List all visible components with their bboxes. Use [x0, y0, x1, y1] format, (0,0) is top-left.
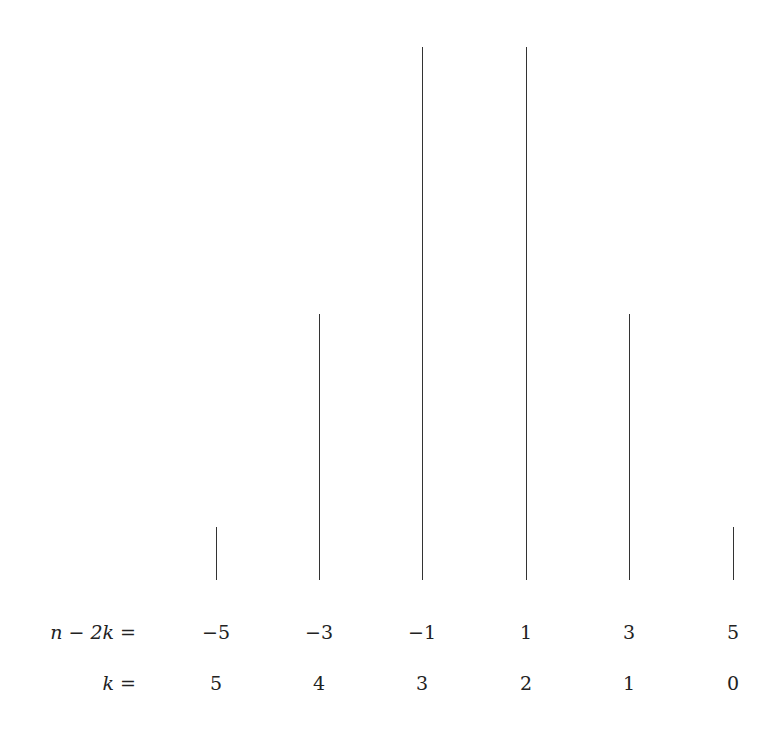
- row-label-n-minus-2k: n − 2k =: [36, 621, 136, 643]
- stick-5: [733, 527, 734, 580]
- row-label-k: k =: [36, 672, 136, 694]
- cell-row2-col3: 3: [392, 672, 452, 694]
- cell-row2-col1: 5: [186, 672, 246, 694]
- cell-row2-col2: 4: [289, 672, 349, 694]
- stick--1: [422, 47, 423, 580]
- cell-row1-col3: −1: [392, 621, 452, 643]
- cell-row1-col5: 3: [599, 621, 659, 643]
- stick-1: [526, 47, 527, 580]
- cell-row2-col6: 0: [703, 672, 763, 694]
- stick-3: [629, 314, 630, 581]
- cell-row1-col2: −3: [289, 621, 349, 643]
- cell-row2-col5: 1: [599, 672, 659, 694]
- stick--3: [319, 314, 320, 581]
- cell-row1-col4: 1: [496, 621, 556, 643]
- stick--5: [216, 527, 217, 580]
- cell-row1-col1: −5: [186, 621, 246, 643]
- cell-row2-col4: 2: [496, 672, 556, 694]
- cell-row1-col6: 5: [703, 621, 763, 643]
- stick-plot: [0, 0, 776, 600]
